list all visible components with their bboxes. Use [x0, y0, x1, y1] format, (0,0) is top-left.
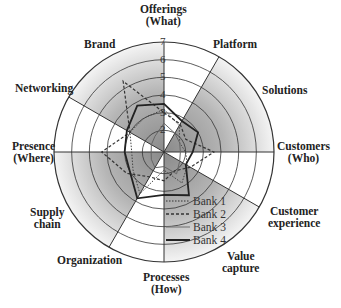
axis-label-solutions: Solutions [262, 84, 307, 96]
tick-label-2: 2 [160, 123, 166, 135]
legend-item-bank-1: Bank 1 [166, 194, 226, 207]
tick-label-4: 4 [160, 88, 166, 100]
axis-label-platform: Platform [213, 38, 257, 50]
axis-label-brand: Brand [84, 38, 115, 50]
axis-label-processes: Processes(How) [143, 271, 189, 295]
axis-label-supply-chain: Supplychain [30, 206, 65, 230]
axis-label-presence: Presence(Where) [12, 140, 55, 164]
axis-label-customer-experience: Customerexperience [268, 205, 320, 229]
legend-item-bank-2: Bank 2 [166, 207, 226, 220]
legend: Bank 1 Bank 2 Bank 3 Bank 4 [166, 194, 226, 246]
tick-label-7: 7 [160, 35, 166, 47]
tick-label-5: 5 [160, 70, 166, 82]
axis-label-networking: Networking [15, 82, 73, 94]
axis-label-organization: Organization [57, 254, 122, 266]
axis-label-customers: Customers(Who) [277, 140, 330, 164]
axis-label-offerings: Offerings(What) [140, 3, 187, 27]
tick-label-6: 6 [160, 53, 166, 65]
tick-label-3: 3 [160, 106, 166, 118]
legend-item-bank-3: Bank 3 [166, 220, 226, 233]
axis-label-value-capture: Valuecapture [222, 250, 259, 274]
legend-item-bank-4: Bank 4 [166, 233, 226, 246]
